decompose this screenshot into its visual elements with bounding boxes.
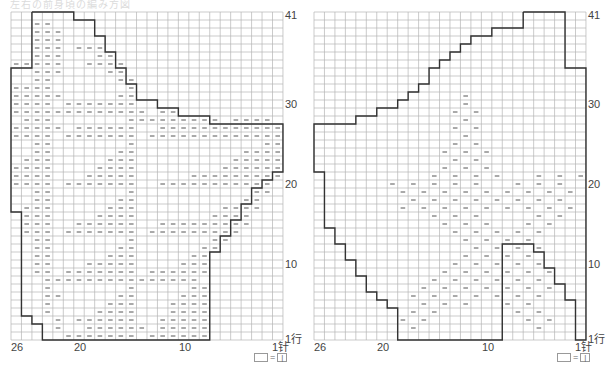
left-row-label-41: 41	[285, 9, 297, 21]
left-row-label-30: 30	[285, 98, 297, 110]
legend-equals: =	[573, 352, 578, 362]
right-row-label-20: 20	[588, 178, 600, 190]
right-legend: = |	[557, 352, 590, 362]
right-row-label-10: 10	[588, 258, 600, 270]
left-col-label-26: 26	[11, 341, 23, 353]
right-row-label-30: 30	[588, 98, 600, 110]
right-col-label-10: 10	[482, 341, 494, 353]
knit-stitch-icon: |	[277, 353, 287, 362]
knit-stitch-icon: |	[580, 353, 590, 362]
left-col-label-20: 20	[74, 341, 86, 353]
knitting-charts	[0, 0, 612, 369]
left-chart-grid	[11, 12, 283, 340]
left-row-label-10: 10	[285, 258, 297, 270]
right-row-label-41: 41	[588, 9, 600, 21]
right-chart-grid	[314, 12, 586, 340]
empty-cell-icon	[254, 353, 268, 362]
left-col-label-10: 10	[179, 341, 191, 353]
legend-equals: =	[270, 352, 275, 362]
right-col-label-20: 20	[377, 341, 389, 353]
left-row-label-20: 20	[285, 178, 297, 190]
left-legend: = |	[254, 352, 287, 362]
right-col-label-26: 26	[314, 341, 326, 353]
empty-cell-icon	[557, 353, 571, 362]
